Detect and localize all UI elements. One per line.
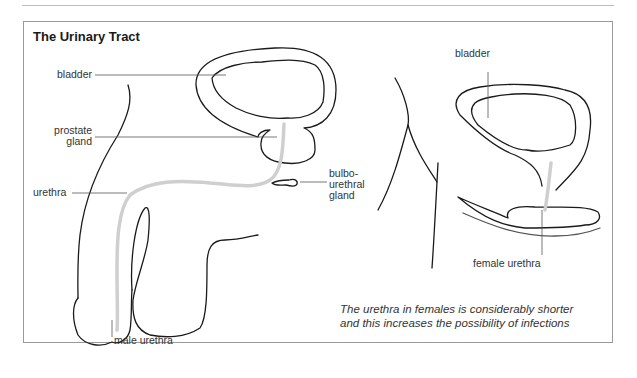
female-bladder-outer [456, 84, 591, 190]
female-perineum [463, 213, 600, 236]
label-female-urethra: female urethra [473, 258, 541, 269]
female-vagina [458, 197, 599, 228]
caption-line-2: and this increases the possibility of in… [340, 317, 610, 331]
female-leg-line [378, 125, 408, 210]
female-urethra-path [545, 163, 551, 210]
male-bladder-inner [212, 60, 324, 118]
label-male-urethra: male urethra [114, 335, 173, 346]
bulbourethral-gland [272, 179, 297, 186]
male-body-contour [78, 85, 130, 298]
caption: The urethra in females is considerably s… [340, 303, 610, 330]
label-prostate-line2: gland [40, 136, 92, 147]
male-urethra-path [117, 124, 284, 330]
male-shaft-loop [132, 208, 258, 337]
label-male-bladder: bladder [40, 69, 92, 80]
label-bulbo-line3: gland [329, 190, 355, 201]
label-female-bladder: bladder [455, 48, 490, 59]
label-urethra: urethra [33, 187, 66, 198]
caption-line-1: The urethra in females is considerably s… [340, 303, 610, 317]
female-body-contour [395, 78, 437, 182]
female-bladder-inner [472, 94, 576, 151]
